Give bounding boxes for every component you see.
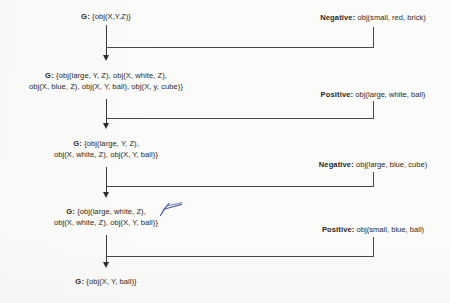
- connector-4-hline: [106, 256, 373, 257]
- node-g1-line-0: G: {obj(large, Y, Z), obj(X, white, Z),: [29, 70, 183, 81]
- node-g2-text-0: {obj(large, Y, Z),: [84, 139, 139, 148]
- example-tag: Negative:: [320, 13, 355, 22]
- connector-2-arrowhead: [103, 123, 109, 129]
- example-value: obj(large, white, ball): [355, 90, 425, 99]
- node-g1-text-0: {obj(large, Y, Z), obj(X, white, Z),: [56, 71, 167, 80]
- connector-3-example-stub: [373, 172, 374, 187]
- connector-2-example-stub: [373, 101, 374, 119]
- connector-4-example-stub: [373, 237, 374, 257]
- node-g3-text-0: {obj(large, white, Z),: [77, 207, 146, 216]
- node-g4-text-0: {obj(X, Y, ball)}: [86, 277, 136, 286]
- connector-3-arrowhead: [103, 192, 109, 198]
- connector-3-hline: [106, 186, 373, 187]
- g-label: G:: [66, 207, 75, 216]
- example-tag: Positive:: [321, 90, 354, 99]
- connector-4-arrowhead: [103, 262, 109, 268]
- example-negative-2: Negative: obj(large, blue, cube): [319, 159, 428, 170]
- node-g2-line-1: obj(X, white, Z), obj(X, Y, ball)}: [54, 149, 158, 160]
- node-g0-text-0: {obj(X,Y,Z)}: [92, 12, 131, 21]
- node-g2: G: {obj(large, Y, Z), obj(X, white, Z), …: [54, 138, 158, 161]
- example-tag: Positive:: [322, 225, 355, 234]
- example-value: obj(small, red, brick): [357, 13, 425, 22]
- connector-3-main-vline: [106, 167, 107, 192]
- g-label: G:: [81, 12, 90, 21]
- connector-1-example-stub: [373, 27, 374, 48]
- node-g4-line-0: G: {obj(X, Y, ball)}: [75, 276, 136, 287]
- connector-2-hline: [106, 118, 373, 119]
- diagram-canvas: G: {obj(X,Y,Z)} Negative: obj(small, red…: [0, 0, 450, 303]
- connector-1-hline: [106, 47, 373, 48]
- node-g3: G: {obj(large, white, Z), obj(X, white, …: [54, 206, 158, 229]
- node-g2-line-0: G: {obj(large, Y, Z),: [54, 138, 158, 149]
- example-positive-1: Positive: obj(large, white, ball): [321, 89, 426, 100]
- node-g3-line-1: obj(X, white, Z), obj(X, Y, ball)}: [54, 217, 158, 228]
- connector-4-main-vline: [106, 235, 107, 262]
- connector-1-main-vline: [106, 25, 107, 55]
- g-label: G:: [75, 277, 84, 286]
- connector-1-arrowhead: [103, 55, 109, 61]
- g-label: G:: [73, 139, 82, 148]
- node-g0-line-0: G: {obj(X,Y,Z)}: [81, 11, 131, 22]
- example-value: obj(small, blue, ball): [357, 225, 425, 234]
- node-g4: G: {obj(X, Y, ball)}: [75, 276, 136, 287]
- example-tag: Negative:: [319, 160, 354, 169]
- node-g3-line-0: G: {obj(large, white, Z),: [54, 206, 158, 217]
- example-value: obj(large, blue, cube): [356, 160, 427, 169]
- example-negative-1: Negative: obj(small, red, brick): [320, 12, 426, 23]
- connector-2-main-vline: [106, 99, 107, 123]
- node-g1: G: {obj(large, Y, Z), obj(X, white, Z), …: [29, 70, 183, 93]
- g-label: G:: [45, 71, 54, 80]
- node-g1-line-1: obj(X, blue, Z), obj(X, Y, ball), obj(X,…: [29, 81, 183, 92]
- node-g0: G: {obj(X,Y,Z)}: [81, 11, 131, 22]
- blue-pen-annotation-icon: [158, 201, 184, 218]
- example-positive-2: Positive: obj(small, blue, ball): [322, 224, 424, 235]
